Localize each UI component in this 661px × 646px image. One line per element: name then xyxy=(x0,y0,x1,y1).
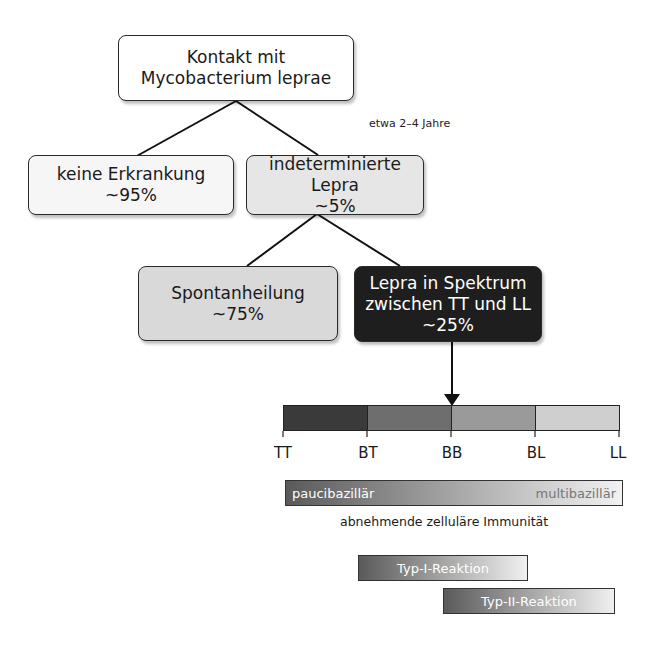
scale-ticks xyxy=(0,0,661,646)
paucibacillary-label: paucibazillär xyxy=(292,486,374,501)
type2-reaction-label: Typ-II-Reaktion xyxy=(481,594,577,609)
tick-tt: TT xyxy=(274,444,292,462)
type1-reaction-bar: Typ-I-Reaktion xyxy=(358,555,528,581)
tick-bl: BL xyxy=(527,444,546,462)
multibacillary-label: multibazillär xyxy=(536,486,616,501)
bacillary-gradient-bar: paucibazillär multibazillär xyxy=(285,480,623,506)
type1-reaction-label: Typ-I-Reaktion xyxy=(397,561,489,576)
tick-bb: BB xyxy=(442,444,463,462)
type2-reaction-bar: Typ-II-Reaktion xyxy=(443,588,615,614)
tick-bt: BT xyxy=(358,444,377,462)
tick-ll: LL xyxy=(610,444,627,462)
immunity-caption: abnehmende zelluläre Immunität xyxy=(340,514,548,529)
